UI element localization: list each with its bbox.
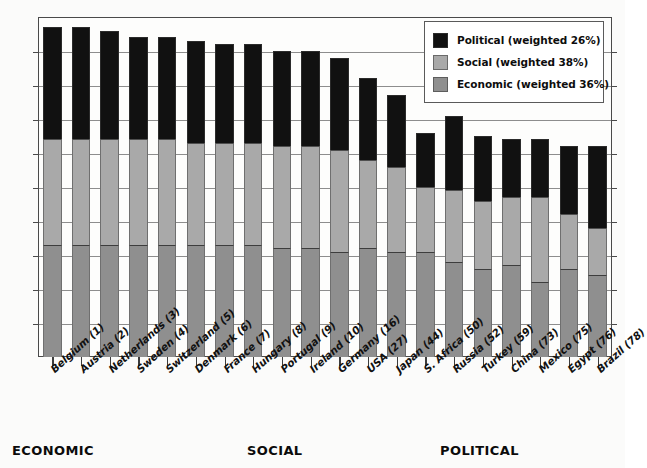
bar-segment-political — [560, 146, 579, 214]
stacked-bar[interactable] — [301, 51, 320, 357]
bar-segment-political — [43, 27, 62, 139]
stacked-bar[interactable] — [100, 31, 119, 357]
section-caption-social: SOCIAL — [247, 443, 303, 458]
bar-segment-social — [387, 167, 406, 252]
legend-label-social: Social (weighted 38%) — [457, 56, 588, 68]
stacked-bar[interactable] — [416, 133, 435, 357]
stacked-bar[interactable] — [244, 44, 263, 357]
stacked-bar[interactable] — [187, 41, 206, 357]
stacked-bar[interactable] — [445, 116, 464, 357]
section-captions: ECONOMIC SOCIAL POLITICAL — [0, 443, 625, 465]
section-caption-political: POLITICAL — [440, 443, 519, 458]
bar-segment-political — [187, 41, 206, 143]
legend-item-social[interactable]: Social (weighted 38%) — [433, 51, 594, 73]
stacked-bar[interactable] — [359, 78, 378, 357]
bar-segment-social — [72, 139, 91, 244]
stacked-bar[interactable] — [72, 27, 91, 357]
bar-segment-political — [72, 27, 91, 139]
bar-segment-political — [474, 136, 493, 201]
legend-label-economic: Economic (weighted 36%) — [457, 78, 609, 90]
chart-legend: Political (weighted 26%) Social (weighte… — [424, 21, 604, 103]
bar-segment-political — [531, 139, 550, 197]
bar-segment-social — [215, 143, 234, 245]
bar-segment-political — [100, 31, 119, 140]
section-caption-economic: ECONOMIC — [12, 443, 94, 458]
bar-segment-social — [474, 201, 493, 269]
stacked-bar[interactable] — [273, 51, 292, 357]
bar-segment-social — [187, 143, 206, 245]
bar-segment-social — [43, 139, 62, 244]
bar-segment-social — [301, 146, 320, 248]
bar-segment-social — [244, 143, 263, 245]
bar-segment-political — [158, 37, 177, 139]
bar-segment-political — [215, 44, 234, 143]
bar-segment-political — [359, 78, 378, 160]
bar-segment-social — [560, 214, 579, 268]
political-swatch-icon — [433, 33, 448, 48]
stacked-bar[interactable] — [43, 27, 62, 357]
bar-segment-social — [588, 228, 607, 276]
legend-label-political: Political (weighted 26%) — [457, 34, 601, 46]
bar-segment-political — [588, 146, 607, 228]
bar-segment-social — [502, 197, 521, 265]
stacked-bar[interactable] — [129, 37, 148, 357]
economic-swatch-icon — [433, 77, 448, 92]
bar-segment-economic — [43, 245, 62, 357]
bar-segment-social — [359, 160, 378, 248]
bar-segment-political — [301, 51, 320, 146]
bar-segment-social — [100, 139, 119, 244]
bar-segment-political — [387, 95, 406, 166]
social-swatch-icon — [433, 55, 448, 70]
bar-segment-political — [330, 58, 349, 150]
bar-segment-political — [244, 44, 263, 143]
stacked-bar[interactable] — [560, 146, 579, 357]
bar-segment-social — [273, 146, 292, 248]
bar-segment-political — [502, 139, 521, 197]
stacked-bar[interactable] — [330, 58, 349, 357]
bar-segment-social — [158, 139, 177, 244]
stacked-bar[interactable] — [502, 139, 521, 357]
legend-item-economic[interactable]: Economic (weighted 36%) — [433, 73, 594, 95]
bar-segment-political — [273, 51, 292, 146]
bar-segment-social — [531, 197, 550, 282]
bar-segment-political — [129, 37, 148, 139]
x-axis-labels: Belgium (1)Austria (2)Netherlands (3)Swe… — [38, 366, 628, 438]
bar-segment-social — [129, 139, 148, 244]
bar-segment-political — [445, 116, 464, 191]
bar-segment-political — [416, 133, 435, 187]
bar-segment-social — [330, 150, 349, 252]
stacked-bar[interactable] — [531, 139, 550, 357]
bar-segment-social — [416, 187, 435, 252]
legend-item-political[interactable]: Political (weighted 26%) — [433, 29, 594, 51]
bar-segment-social — [445, 190, 464, 261]
